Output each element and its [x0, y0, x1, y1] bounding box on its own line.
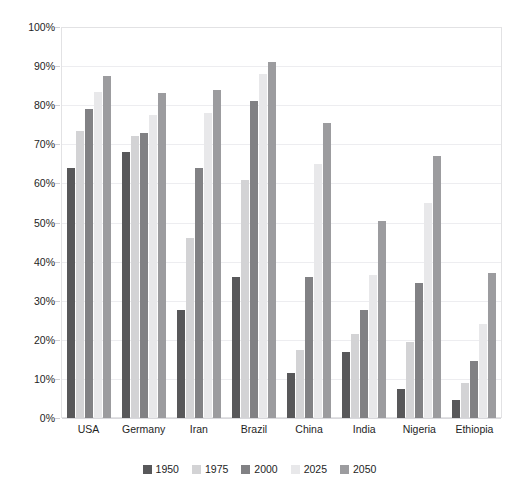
bar[interactable] [158, 93, 166, 418]
legend-item[interactable]: 2050 [340, 464, 376, 475]
legend-label: 1975 [205, 464, 228, 475]
bar[interactable] [433, 156, 441, 418]
bar-group [392, 27, 447, 418]
y-axis-tick-mark [55, 27, 60, 28]
bar-group [226, 27, 281, 418]
bar-group [116, 27, 171, 418]
bar[interactable] [287, 373, 295, 418]
y-axis-tick-mark [55, 379, 60, 380]
bar[interactable] [268, 62, 276, 418]
bar[interactable] [323, 123, 331, 418]
bar[interactable] [342, 352, 350, 418]
x-axis-tick-label: Nigeria [392, 423, 447, 436]
legend-label: 1950 [156, 464, 179, 475]
bar[interactable] [195, 168, 203, 418]
bar[interactable] [360, 310, 368, 418]
legend-swatch-icon [143, 465, 152, 474]
x-axis-tick-label: Ethiopia [447, 423, 502, 436]
bar[interactable] [259, 74, 267, 418]
x-axis-tick-label: China [282, 423, 337, 436]
chart-legend: 19501975200020252050 [0, 464, 519, 475]
x-axis-tick-label: Brazil [226, 423, 281, 436]
bar[interactable] [424, 203, 432, 418]
bar[interactable] [479, 324, 487, 418]
bar[interactable] [232, 277, 240, 418]
bar[interactable] [67, 168, 75, 418]
y-axis-tick-label: 50% [0, 218, 55, 228]
y-axis-tick-mark [55, 262, 60, 263]
x-axis-tick-label: Iran [171, 423, 226, 436]
bar[interactable] [369, 275, 377, 418]
y-axis-tick-label: 10% [0, 374, 55, 384]
bars-layer [61, 27, 502, 418]
bar[interactable] [305, 277, 313, 418]
bar-group [171, 27, 226, 418]
bar[interactable] [186, 238, 194, 418]
y-axis-tick-mark [55, 418, 60, 419]
x-axis-tick-label: India [337, 423, 392, 436]
y-axis-tick-mark [55, 105, 60, 106]
y-axis-tick-label: 100% [0, 22, 55, 32]
bar[interactable] [378, 221, 386, 418]
bar[interactable] [204, 113, 212, 418]
legend-label: 2050 [353, 464, 376, 475]
bar[interactable] [296, 350, 304, 418]
legend-swatch-icon [291, 465, 300, 474]
bar[interactable] [177, 310, 185, 418]
legend-swatch-icon [340, 465, 349, 474]
y-axis-tick-mark [55, 183, 60, 184]
legend-label: 2000 [254, 464, 277, 475]
y-axis-tick-mark [55, 66, 60, 67]
gridline [62, 418, 501, 419]
bar[interactable] [452, 400, 460, 418]
y-axis: 100%90%80%70%60%50%40%30%20%10%0% [0, 27, 55, 418]
legend-item[interactable]: 1950 [143, 464, 179, 475]
legend-item[interactable]: 2000 [241, 464, 277, 475]
y-axis-tick-label: 90% [0, 61, 55, 71]
bar[interactable] [149, 115, 157, 418]
bar[interactable] [488, 273, 496, 418]
bar-group [282, 27, 337, 418]
bar-group [61, 27, 116, 418]
bar[interactable] [351, 334, 359, 418]
legend-item[interactable]: 1975 [192, 464, 228, 475]
y-axis-tick-label: 80% [0, 100, 55, 110]
bar[interactable] [415, 283, 423, 418]
bar[interactable] [94, 92, 102, 418]
y-axis-tick-label: 60% [0, 178, 55, 188]
x-axis-tick-label: Germany [116, 423, 171, 436]
y-axis-tick-label: 30% [0, 296, 55, 306]
legend-swatch-icon [241, 465, 250, 474]
bar[interactable] [131, 136, 139, 418]
y-axis-tick-label: 70% [0, 139, 55, 149]
y-axis-tick-mark [55, 301, 60, 302]
bar[interactable] [85, 109, 93, 418]
legend-item[interactable]: 2025 [291, 464, 327, 475]
bar[interactable] [397, 389, 405, 418]
bar[interactable] [103, 76, 111, 418]
bar-group [337, 27, 392, 418]
bar[interactable] [461, 383, 469, 418]
bar[interactable] [314, 164, 322, 418]
y-axis-tick-mark [55, 223, 60, 224]
x-axis-tick-label: USA [61, 423, 116, 436]
bar-chart: 100%90%80%70%60%50%40%30%20%10%0% USAGer… [0, 0, 519, 494]
bar[interactable] [250, 101, 258, 418]
y-axis-tick-label: 40% [0, 257, 55, 267]
bar[interactable] [213, 90, 221, 418]
bar[interactable] [470, 361, 478, 418]
bar[interactable] [76, 131, 84, 418]
bar[interactable] [406, 342, 414, 418]
bar-group [447, 27, 502, 418]
bar[interactable] [140, 133, 148, 418]
bar[interactable] [241, 180, 249, 419]
bar[interactable] [122, 152, 130, 418]
x-axis: USAGermanyIranBrazilChinaIndiaNigeriaEth… [61, 423, 502, 436]
y-axis-tick-label: 20% [0, 335, 55, 345]
y-axis-tick-mark [55, 144, 60, 145]
y-axis-tick-mark [55, 340, 60, 341]
legend-swatch-icon [192, 465, 201, 474]
legend-label: 2025 [304, 464, 327, 475]
y-axis-tick-label: 0% [0, 413, 55, 423]
